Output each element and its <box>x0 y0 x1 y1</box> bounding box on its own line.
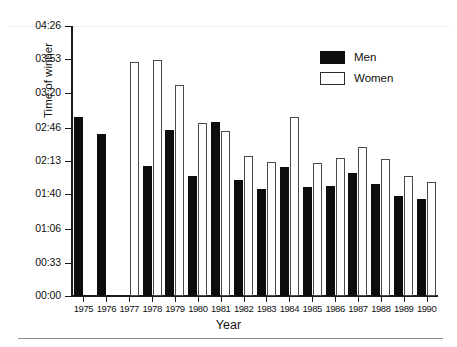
y-tick-mark <box>65 194 71 195</box>
y-tick-label: 01:06 <box>19 222 61 235</box>
bar-men-1980 <box>188 176 197 296</box>
y-tick-label: 02:46 <box>19 121 61 134</box>
y-tick-label: 00:33 <box>19 256 61 269</box>
legend-swatch-men-icon <box>320 51 345 64</box>
bar-men-1978 <box>143 166 152 296</box>
x-tick-mark <box>404 297 405 302</box>
x-tick-mark <box>152 297 153 302</box>
x-tick-mark <box>83 297 84 302</box>
y-tick-mark <box>65 26 71 27</box>
x-tick-mark <box>381 297 382 302</box>
x-tick-mark <box>266 297 267 302</box>
bar-women-1988 <box>381 159 390 296</box>
x-tick-mark <box>221 297 222 302</box>
y-tick-mark <box>65 296 71 297</box>
chart-legend: Men Women <box>320 48 430 90</box>
bar-men-1990 <box>417 199 426 296</box>
bar-men-1981 <box>211 122 220 296</box>
legend-label-women: Women <box>354 72 393 84</box>
y-tick-mark <box>65 93 71 94</box>
y-tick-label: 02:13 <box>19 154 61 167</box>
bar-men-1975 <box>74 117 83 296</box>
bar-women-1982 <box>244 156 253 296</box>
bar-women-1981 <box>221 131 230 296</box>
x-tick-mark <box>106 297 107 302</box>
bottom-divider <box>18 338 443 339</box>
bar-men-1984 <box>280 167 289 296</box>
legend-label-men: Men <box>354 51 376 63</box>
bar-men-1979 <box>165 130 174 296</box>
y-tick-label: 03:53 <box>19 52 61 65</box>
x-tick-mark <box>129 297 130 302</box>
bar-men-1983 <box>257 189 266 296</box>
bar-women-1980 <box>198 123 207 296</box>
bar-men-1987 <box>348 173 357 296</box>
bar-women-1985 <box>313 163 322 296</box>
y-tick-mark <box>65 59 71 60</box>
y-tick-label: 01:40 <box>19 187 61 200</box>
x-tick-mark <box>427 297 428 302</box>
y-tick-label: 03:20 <box>19 86 61 99</box>
y-tick-mark <box>65 263 71 264</box>
bar-women-1990 <box>427 182 436 296</box>
bar-women-1983 <box>267 162 276 296</box>
x-tick-mark <box>289 297 290 302</box>
x-tick-label: 1990 <box>413 303 441 315</box>
legend-swatch-women-icon <box>320 72 345 85</box>
y-tick-label: 00:00 <box>19 289 61 302</box>
bar-men-1989 <box>394 196 403 296</box>
y-tick-label: 04:26 <box>19 19 61 32</box>
bar-women-1986 <box>336 158 345 296</box>
x-tick-mark <box>358 297 359 302</box>
bar-men-1985 <box>303 187 312 296</box>
x-tick-mark <box>175 297 176 302</box>
x-tick-mark <box>198 297 199 302</box>
bar-men-1976 <box>97 134 106 296</box>
x-axis-title: Year <box>0 318 457 332</box>
bar-men-1988 <box>371 184 380 296</box>
x-tick-mark <box>244 297 245 302</box>
y-tick-mark <box>65 128 71 129</box>
bar-women-1979 <box>175 85 184 296</box>
bar-men-1982 <box>234 180 243 296</box>
x-tick-mark <box>312 297 313 302</box>
legend-item-men: Men <box>320 48 430 66</box>
y-tick-mark <box>65 161 71 162</box>
x-tick-mark <box>335 297 336 302</box>
bar-women-1987 <box>358 147 367 296</box>
marathon-winner-times-figure: Time of winner 00:0000:3301:0601:4002:13… <box>0 0 457 347</box>
legend-item-women: Women <box>320 69 430 87</box>
bar-women-1989 <box>404 176 413 296</box>
bar-women-1978 <box>153 60 162 297</box>
bar-men-1986 <box>326 186 335 296</box>
y-tick-mark <box>65 229 71 230</box>
bar-women-1977 <box>130 62 139 296</box>
bar-women-1984 <box>290 117 299 296</box>
